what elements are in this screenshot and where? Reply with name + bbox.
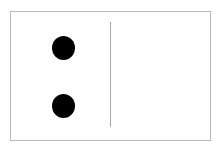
pip-icon [52, 36, 75, 60]
pip-icon [52, 94, 75, 118]
domino-divider [110, 22, 111, 127]
